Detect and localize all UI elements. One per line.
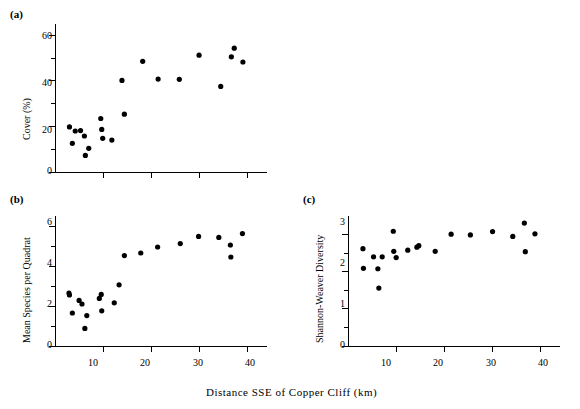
data-point [84,313,89,318]
data-point [156,77,161,82]
data-point [371,254,376,259]
data-point [391,249,396,254]
panel-c: (c) Shannon-Weaver Diversity 0 1 2 3 10 … [290,185,580,375]
data-point [140,59,145,64]
data-point [416,243,421,248]
panel-c-plot-area [290,185,580,375]
data-point [86,146,91,151]
data-point [82,326,87,331]
data-point [70,310,75,315]
data-point [490,229,495,234]
data-point [79,301,84,306]
data-point [216,235,221,240]
data-point [112,300,117,305]
data-point [155,244,160,249]
data-point [116,282,121,287]
data-point [375,266,380,271]
data-point [228,242,233,247]
data-point [119,78,124,83]
data-point [99,292,104,297]
data-point [177,77,182,82]
data-point [70,141,75,146]
xaxis-title: Distance SSE of Copper Cliff (km) [206,386,377,398]
data-point [391,229,396,234]
data-point [394,255,399,260]
data-point [122,253,127,258]
data-point [82,133,87,138]
data-point [78,128,83,133]
panel-a-plot-area [0,0,290,185]
data-point [138,250,143,255]
data-point [522,220,527,225]
data-point [99,127,104,132]
data-point [67,292,72,297]
data-point [468,232,473,237]
data-point [122,112,127,117]
data-point [229,54,234,59]
data-point [67,124,72,129]
data-point [73,128,78,133]
data-point [532,231,537,236]
data-point [361,266,366,271]
data-point [178,241,183,246]
data-point [98,116,103,121]
panel-a: (a) Cover (%) 0 20 40 60 [0,0,290,185]
data-point [240,59,245,64]
data-point [376,285,381,290]
data-point [433,249,438,254]
data-point [360,246,365,251]
data-point [196,234,201,239]
data-point [100,136,105,141]
data-point [99,308,104,313]
data-point [523,249,528,254]
panel-b-plot-area [0,185,290,375]
figure-container: (a) Cover (%) 0 20 40 60 (b) Mean Specie… [0,0,580,409]
data-point [218,84,223,89]
data-point [83,153,88,158]
data-point [510,234,515,239]
data-point [240,231,245,236]
data-point [109,138,114,143]
data-point [196,53,201,58]
data-point [449,232,454,237]
data-point [228,254,233,259]
data-point [232,46,237,51]
data-point [380,254,385,259]
panel-b: (b) Mean Species per Quadrat 0 2 4 6 10 … [0,185,290,375]
data-point [405,248,410,253]
